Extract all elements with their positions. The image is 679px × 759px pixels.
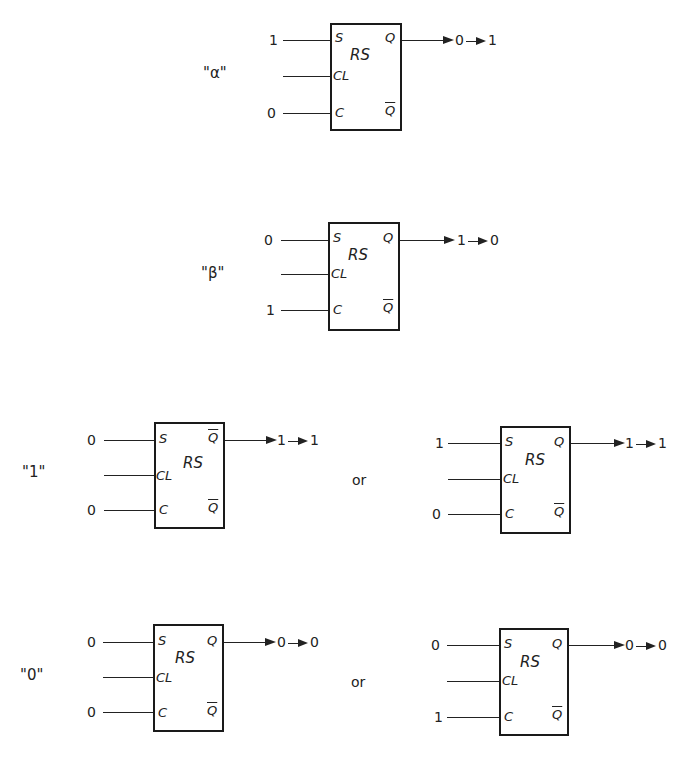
transition-arrow-icon (636, 440, 656, 448)
arrow-head-icon (614, 439, 625, 447)
input-cl-wire (447, 681, 499, 682)
input-c-wire (281, 310, 328, 311)
input-c-value: 0 (87, 705, 96, 719)
input-s-value: 1 (269, 33, 278, 47)
transition-arrow-icon (466, 37, 486, 45)
output-wire (402, 40, 444, 41)
output-transition: 11 (625, 436, 667, 450)
arrow-head-icon (614, 641, 625, 649)
arrow-head-icon (266, 436, 277, 444)
pin-s: S (333, 231, 341, 245)
input-s-value: 1 (435, 436, 444, 450)
case-label-beta: "β" (201, 264, 224, 282)
case-label-zero: "0" (20, 666, 43, 684)
rs-flipflop-transition-diagram: "α" 1 0 S RS CL C Q Q 01 "β" 0 1 S RS CL… (0, 0, 679, 759)
input-c-value: 1 (266, 303, 275, 317)
pin-q: Q (207, 634, 217, 648)
input-s-value: 0 (87, 635, 96, 649)
transition-arrow-icon (288, 639, 308, 647)
output-before: 1 (457, 232, 466, 248)
input-c-wire (447, 717, 499, 718)
output-wire (571, 443, 615, 444)
pin-c: C (335, 106, 344, 120)
pin-q-bar: Q (383, 301, 393, 315)
input-cl-wire (281, 274, 328, 275)
input-cl-wire (283, 76, 330, 77)
input-s-wire (448, 443, 500, 444)
pin-cl: CL (503, 472, 519, 486)
transition-arrow-icon (468, 237, 488, 245)
pin-q: Q (385, 31, 395, 45)
pin-q-bar: Q (208, 501, 218, 515)
pin-q-bar: Q (554, 505, 564, 519)
input-c-value: 0 (267, 106, 276, 120)
input-s-wire (283, 40, 330, 41)
input-c-value: 1 (434, 710, 443, 724)
pin-cl: CL (156, 469, 172, 483)
pin-cl: CL (156, 671, 172, 685)
output-wire (400, 240, 445, 241)
input-cl-wire (448, 479, 500, 480)
arrow-head-icon (444, 236, 455, 244)
pin-s: S (505, 435, 513, 449)
input-c-wire (448, 514, 500, 515)
output-wire (569, 645, 615, 646)
pin-q-bar: Q (385, 104, 395, 118)
pin-cl: CL (331, 267, 347, 281)
pin-c: C (505, 507, 514, 521)
pin-c: C (504, 710, 513, 724)
input-s-value: 0 (264, 233, 273, 247)
pin-c: C (333, 303, 342, 317)
output-before: 0 (625, 637, 634, 653)
output-transition: 01 (455, 33, 497, 47)
transition-arrow-icon (636, 642, 656, 650)
input-s-value: 0 (431, 638, 440, 652)
block-label-rs: RS (175, 649, 195, 667)
output-transition: 10 (457, 233, 499, 247)
block-label-rs: RS (525, 451, 545, 469)
output-after: 1 (310, 432, 319, 448)
output-before: 0 (455, 32, 464, 48)
input-c-wire (283, 113, 330, 114)
input-s-wire (103, 642, 153, 643)
or-connector-zero: or (351, 674, 365, 690)
output-transition: 11 (277, 433, 319, 447)
input-c-wire (104, 510, 154, 511)
pin-cl: CL (333, 69, 349, 83)
pin-s: S (158, 634, 166, 648)
block-label-rs: RS (520, 653, 540, 671)
block-label-rs: RS (348, 246, 368, 264)
output-before: 1 (625, 435, 634, 451)
input-c-value: 0 (87, 503, 96, 517)
output-after: 0 (658, 637, 667, 653)
input-c-value: 0 (432, 507, 441, 521)
pin-q: Q (554, 435, 564, 449)
pin-s: S (159, 432, 167, 446)
pin-cl: CL (502, 674, 518, 688)
block-label-rs: RS (350, 46, 370, 64)
output-after: 1 (658, 435, 667, 451)
pin-q: Q (552, 637, 562, 651)
transition-arrow-icon (288, 437, 308, 445)
pin-q: Q (383, 231, 393, 245)
pin-c: C (159, 503, 168, 517)
pin-c: C (158, 706, 167, 720)
case-label-alpha: "α" (203, 64, 227, 82)
output-transition: 00 (625, 638, 667, 652)
output-wire (225, 440, 267, 441)
output-transition: 00 (277, 635, 319, 649)
output-after: 1 (488, 32, 497, 48)
output-after: 0 (490, 232, 499, 248)
input-cl-wire (103, 677, 153, 678)
pin-q-bar: Q (207, 704, 217, 718)
arrow-head-icon (443, 36, 454, 44)
output-before: 1 (277, 432, 286, 448)
or-connector-one: or (352, 472, 366, 488)
pin-q-bar: Q (552, 708, 562, 722)
pin-s: S (504, 637, 512, 651)
input-s-wire (447, 645, 499, 646)
input-cl-wire (104, 475, 154, 476)
output-before: 0 (277, 634, 286, 650)
input-s-wire (104, 440, 154, 441)
input-s-value: 0 (87, 433, 96, 447)
